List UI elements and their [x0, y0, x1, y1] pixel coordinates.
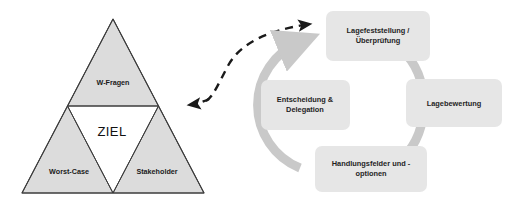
- triangle-label-worst-case: Worst-Case: [49, 167, 89, 176]
- management-cycle: Lagefeststellung / Überprüfung Lagebewer…: [258, 11, 502, 192]
- dashed-arrow-to-triangle: [188, 99, 209, 105]
- cycle-step-handlungsfelder-line2: optionen: [355, 169, 387, 178]
- cycle-step-lagefeststellung[interactable]: Lagefeststellung / Überprüfung: [326, 11, 430, 61]
- triangle-label-ziel: ZIEL: [97, 124, 126, 139]
- triangle-label-w-fragen: W-Fragen: [97, 78, 130, 87]
- triangle-segment-top[interactable]: [68, 19, 159, 106]
- diagram-canvas: W-Fragen Worst-Case Stakeholder ZIEL Lag…: [0, 0, 508, 208]
- cycle-step-lagebewertung[interactable]: Lagebewertung: [406, 79, 502, 127]
- cycle-step-entscheidung-line2: Delegation: [286, 105, 324, 114]
- cycle-step-handlungsfelder[interactable]: Handlungsfelder und - optionen: [315, 146, 427, 192]
- cycle-step-lagebewertung-line1: Lagebewertung: [427, 99, 482, 108]
- triangle-label-stakeholder: Stakeholder: [136, 167, 177, 176]
- zielscheibe-triangle: W-Fragen Worst-Case Stakeholder ZIEL: [22, 19, 204, 193]
- cycle-step-handlungsfelder-line1: Handlungsfelder und -: [332, 159, 411, 168]
- cycle-step-entscheidung-line1: Entscheidung &: [277, 95, 334, 104]
- cycle-step-entscheidung[interactable]: Entscheidung & Delegation: [261, 80, 350, 130]
- cycle-step-lagefeststellung-line1: Lagefeststellung /: [347, 26, 410, 35]
- cycle-step-lagefeststellung-line2: Überprüfung: [356, 36, 401, 45]
